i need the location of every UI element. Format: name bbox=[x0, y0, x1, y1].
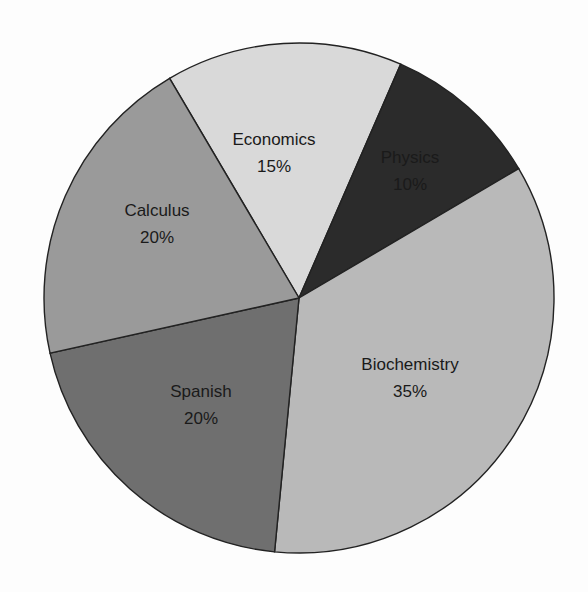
pie-chart: Economics 15% Physics 10% Biochemistry 3… bbox=[0, 0, 588, 592]
slice-value-spanish: 20% bbox=[184, 409, 218, 428]
slice-label-economics: Economics bbox=[232, 130, 315, 149]
slice-label-calculus: Calculus bbox=[124, 201, 189, 220]
slice-value-biochemistry: 35% bbox=[393, 382, 427, 401]
slice-label-biochemistry: Biochemistry bbox=[361, 355, 459, 374]
slice-label-spanish: Spanish bbox=[170, 382, 231, 401]
slice-label-physics: Physics bbox=[381, 148, 440, 167]
pie-slices bbox=[44, 43, 554, 553]
slice-value-calculus: 20% bbox=[140, 228, 174, 247]
slice-value-economics: 15% bbox=[257, 157, 291, 176]
slice-value-physics: 10% bbox=[393, 175, 427, 194]
